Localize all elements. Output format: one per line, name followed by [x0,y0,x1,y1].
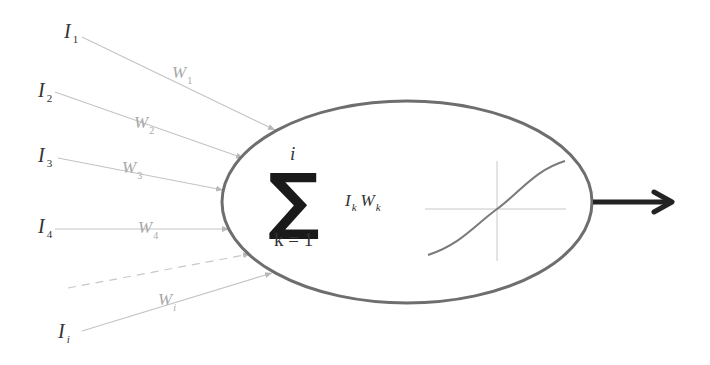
weight-label-i: Wi [158,290,176,313]
weight-label-2: W2 [134,113,154,136]
connection-line-i [82,273,272,331]
weight-label-4: W4 [138,218,158,241]
connection-line-1 [82,37,275,130]
input-labels: I1 I2 I3 I4 Ii [37,20,78,345]
input-label-3: I3 [37,144,53,169]
input-label-2: I2 [37,79,52,104]
neuron-diagram: I1 I2 I3 I4 Ii W1 W2 W3 W4 Wi i ∑ k = 1 … [0,0,710,365]
weight-label-3: W3 [122,158,142,181]
input-label-1: I1 [63,20,78,45]
sum-lower-limit: k = 1 [274,229,313,250]
input-label-i: Ii [57,320,70,345]
connection-line-dashed [68,254,250,288]
output-arrow-icon [593,192,672,212]
weight-label-1: W1 [172,63,192,86]
input-label-4: I4 [37,215,53,240]
weight-labels: W1 W2 W3 W4 Wi [122,63,192,313]
